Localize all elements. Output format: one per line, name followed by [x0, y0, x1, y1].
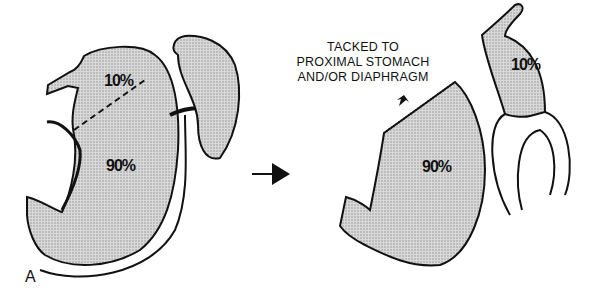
stomach-body-icon — [27, 47, 178, 265]
caption-line-3: AND/OR DIAPHRAGM — [283, 70, 443, 85]
panel-label: A — [25, 268, 36, 286]
upper-portion-label: 10% — [104, 72, 133, 90]
gastric-pouch — [482, 4, 570, 215]
caption-line-1: TACKED TO — [283, 40, 443, 55]
remnant-stomach — [340, 82, 485, 265]
roux-limb-inner — [518, 130, 554, 210]
caption-line-2: PROXIMAL STOMACH — [283, 55, 443, 70]
stomach-remnant-icon — [340, 82, 485, 265]
pouch-label: 10% — [511, 56, 540, 74]
transition-arrow-icon — [252, 163, 290, 185]
tack-caption: TACKED TO PROXIMAL STOMACH AND/OR DIAPHR… — [283, 40, 443, 85]
roux-limb-outer-right — [545, 112, 570, 195]
lower-portion-label: 90% — [106, 157, 135, 175]
spleen-icon — [174, 36, 240, 159]
tack-arrow-icon — [397, 95, 409, 106]
roux-limb-outer-left — [492, 114, 510, 215]
remnant-stomach-label: 90% — [422, 158, 451, 176]
